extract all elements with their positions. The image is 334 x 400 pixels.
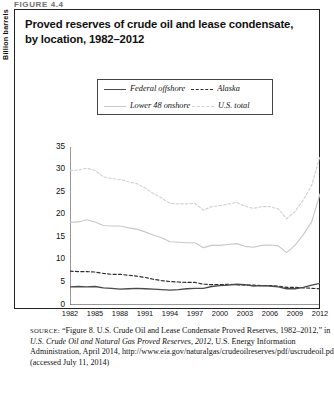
y-axis-title: Billion barrels (1, 9, 10, 60)
source-note: SOURCE: “Figure 8. U.S. Crude Oil and Le… (30, 326, 334, 368)
source-line1: “Figure 8. U.S. Crude Oil and Lease Cond… (60, 326, 330, 335)
x-tick-2000: 2000 (207, 309, 233, 318)
legend-item-alaska: Alaska (185, 84, 272, 93)
x-tick-2003: 2003 (232, 309, 258, 318)
y-tick-15: 15 (43, 232, 65, 241)
legend-label-lower-48-onshore: Lower 48 onshore (130, 101, 190, 110)
figure-label: FIGURE 4.4 (14, 0, 64, 9)
x-tick-1997: 1997 (182, 309, 208, 318)
legend-swatch-lower-48-onshore (104, 102, 126, 110)
x-tick-1982: 1982 (57, 309, 83, 318)
chart-svg (70, 147, 320, 305)
y-tick-30: 30 (43, 164, 65, 173)
source-prefix: SOURCE: (30, 327, 60, 334)
plot-area (70, 147, 320, 305)
chart-title: Proved reserves of crude oil and lease c… (25, 17, 307, 46)
legend-row: Federal offshore Alaska (98, 80, 272, 97)
x-tick-2006: 2006 (257, 309, 283, 318)
source-italic-title: U.S. Crude Oil and Natural Gas Proved Re… (30, 337, 211, 346)
y-axis-tick-labels: 05101520253035 (41, 147, 65, 305)
legend-swatch-alaska (191, 85, 213, 93)
legend-swatch-us-total (192, 102, 214, 110)
x-tick-2012: 2012 (307, 309, 333, 318)
series-alaska (70, 271, 320, 289)
series-u-s-total (70, 156, 320, 219)
legend-item-us-total: U.S. total (186, 101, 272, 110)
legend-row: Lower 48 onshore U.S. total (98, 97, 272, 114)
y-tick-5: 5 (43, 277, 65, 286)
x-tick-1985: 1985 (82, 309, 108, 318)
y-tick-20: 20 (43, 209, 65, 218)
x-tick-1994: 1994 (157, 309, 183, 318)
x-tick-2009: 2009 (282, 309, 308, 318)
chart-legend: Federal offshore Alaska Lower 48 onshore… (97, 79, 273, 115)
legend-item-lower-48-onshore: Lower 48 onshore (98, 101, 186, 110)
x-tick-1988: 1988 (107, 309, 133, 318)
legend-label-alaska: Alaska (217, 84, 240, 93)
legend-label-federal-offshore: Federal offshore (130, 84, 185, 93)
x-axis-tick-labels: 1982198519881991199419972000200320062009… (70, 309, 320, 321)
series-lower-48-onshore (70, 194, 320, 253)
y-tick-25: 25 (43, 187, 65, 196)
y-tick-0: 0 (43, 300, 65, 309)
x-tick-1991: 1991 (132, 309, 158, 318)
chart-figure-box: Proved reserves of crude oil and lease c… (14, 9, 320, 309)
legend-label-us-total: U.S. total (218, 101, 250, 110)
legend-swatch-federal-offshore (104, 85, 126, 93)
y-tick-35: 35 (43, 142, 65, 151)
legend-item-federal-offshore: Federal offshore (98, 84, 185, 93)
y-tick-10: 10 (43, 254, 65, 263)
